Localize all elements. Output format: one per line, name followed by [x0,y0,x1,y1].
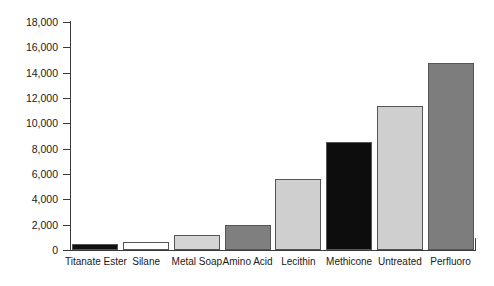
bar-perfluoro [428,63,474,250]
y-axis-tick-label: 12,000 [0,93,58,103]
bar-untreated [377,106,423,250]
bar-amino-acid [225,225,271,250]
bar-metal-soap [174,235,220,250]
y-axis-tick-label: 4,000 [0,194,58,204]
y-axis-tick-label: 10,000 [0,118,58,128]
y-axis-tick-label: 8,000 [0,144,58,154]
x-axis-line [70,250,476,251]
y-axis-tick-label: 2,000 [0,220,58,230]
bar-chart: 18,00016,00014,00012,00010,0008,0006,000… [0,0,494,286]
y-axis-tick-label: 14,000 [0,68,58,78]
y-axis-tick-label: 16,000 [0,42,58,52]
y-axis-tick-label: 18,000 [0,17,58,27]
bar-lecithin [275,179,321,250]
bar-silane [123,242,169,250]
plot-area [70,22,476,250]
x-axis-label-perfluoro: Perfluoro [420,256,481,268]
bar-methicone [326,142,372,250]
bar-titanate-ester [72,244,118,250]
y-axis-tick-label: 0 [0,245,58,255]
y-axis-tick-label: 6,000 [0,169,58,179]
